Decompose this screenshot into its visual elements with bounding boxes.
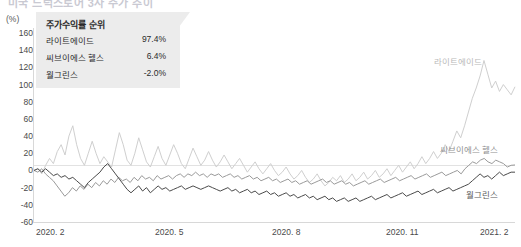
- legend-row: 라이트에이드97.4%: [46, 34, 172, 48]
- x-axis-tick: 2020. 5: [155, 227, 183, 237]
- series-line-walgreens: [34, 164, 515, 202]
- series-label-riteaid: 라이트에이드: [434, 55, 482, 67]
- legend-row-name: 월그린스: [46, 68, 78, 80]
- legend-row: 씨브이에스 헬스6.4%: [46, 51, 172, 65]
- x-axis-tick: 2020. 8: [272, 227, 300, 237]
- legend-title: 주가수익률 순위: [46, 18, 105, 31]
- chart-root: 미국 드럭스토어 3사 주가 추이 (%) 160140120100806040…: [0, 0, 521, 247]
- series-walgreens-group: [34, 164, 515, 202]
- legend-row: 월그린스-2.0%: [46, 68, 172, 82]
- legend-row-value: -2.0%: [144, 68, 166, 78]
- legend-row-name: 라이트에이드: [46, 34, 94, 46]
- legend-row-value: 6.4%: [147, 51, 166, 61]
- x-axis-tick: 2021. 2: [480, 227, 508, 237]
- series-label-cvs: 씨브이에스 헬스: [440, 143, 498, 155]
- x-axis-tick: 2020. 11: [386, 227, 418, 237]
- x-axis-tick: 2020. 2: [36, 227, 64, 237]
- legend-row-name: 씨브이에스 헬스: [46, 51, 104, 63]
- legend-row-value: 97.4%: [142, 34, 166, 44]
- series-label-walgreens: 월그린스: [466, 188, 498, 200]
